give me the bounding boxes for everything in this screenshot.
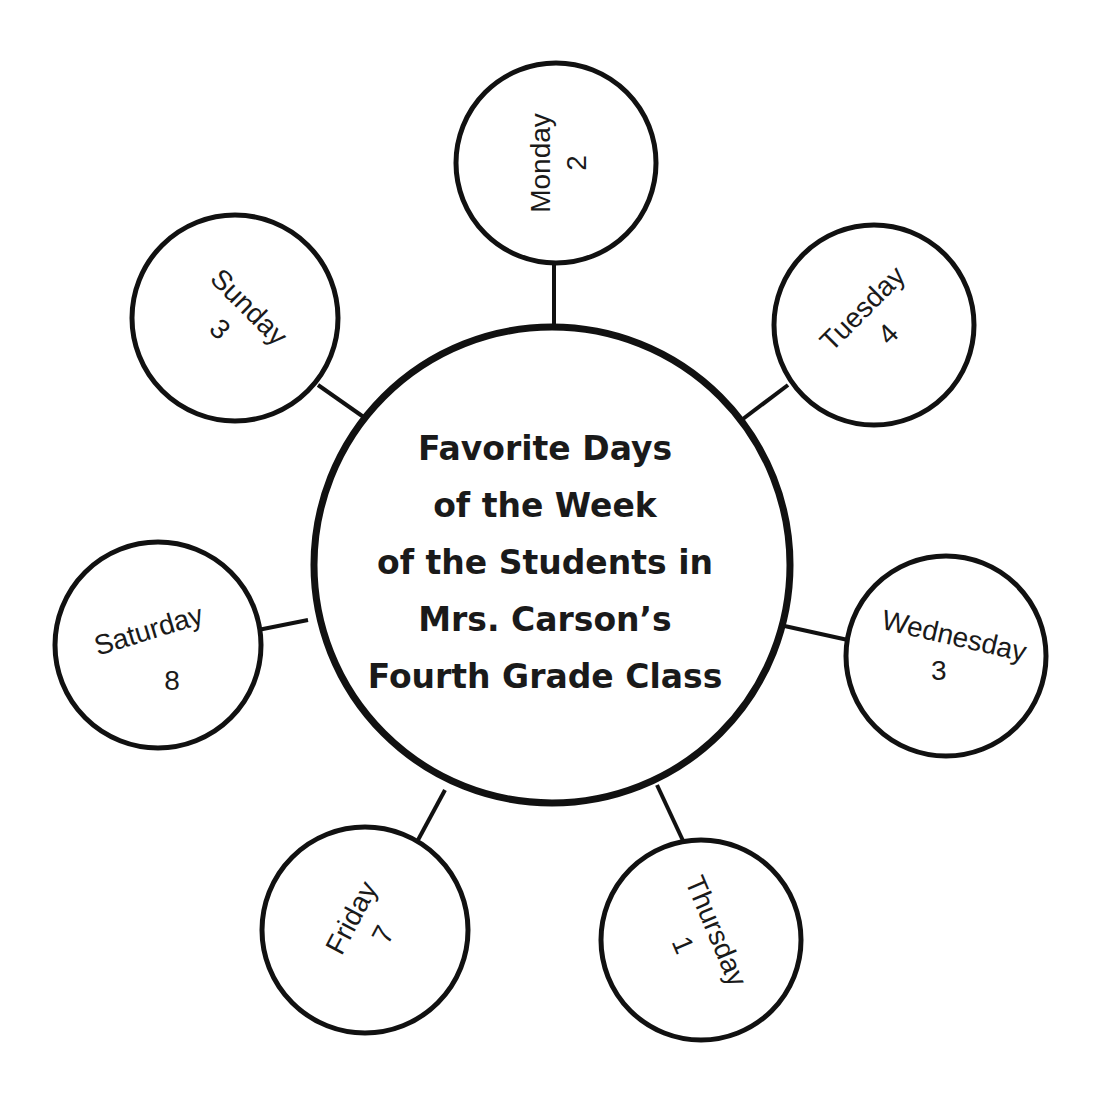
spoke-thursday: Thursday 1: [601, 840, 801, 1040]
count-monday: 2: [561, 155, 592, 171]
connector-friday: [418, 790, 445, 840]
spoke-circle-monday: [456, 63, 656, 263]
count-wednesday: 3: [931, 655, 947, 686]
hub-title-line-5: Fourth Grade Class: [368, 657, 723, 696]
hub-title-line-4: Mrs. Carson’s: [418, 600, 672, 639]
spoke-circle-thursday: [601, 840, 801, 1040]
day-label-monday: Monday: [525, 113, 556, 213]
spoke-saturday: Saturday 8: [55, 542, 261, 748]
spoke-circle-saturday: [55, 542, 261, 748]
hub-title-line-2: of the Week: [433, 486, 658, 525]
spoke-circle-friday: [262, 827, 468, 1033]
connector-thursday: [657, 785, 685, 845]
spoke-wednesday: Wednesday 3: [846, 556, 1046, 756]
hub-title-line-1: Favorite Days: [418, 429, 672, 468]
spoke-tuesday: Tuesday 4: [774, 225, 974, 425]
spoke-friday: Friday 7: [262, 827, 468, 1033]
hub-node: Favorite Days of the Week of the Student…: [314, 327, 790, 803]
connector-wednesday: [780, 625, 848, 640]
count-saturday: 8: [164, 665, 180, 696]
web-diagram: Favorite Days of the Week of the Student…: [0, 0, 1102, 1110]
connector-sunday: [318, 385, 365, 418]
spoke-monday: Monday 2: [456, 63, 656, 263]
hub-title-line-3: of the Students in: [377, 543, 713, 582]
spoke-sunday: Sunday 3: [132, 215, 338, 421]
spoke-circle-sunday: [132, 215, 338, 421]
connector-saturday: [258, 620, 308, 630]
